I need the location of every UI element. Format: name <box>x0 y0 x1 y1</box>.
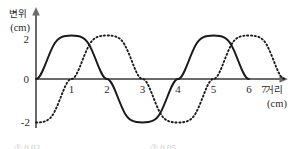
y-axis <box>32 7 40 128</box>
x-axis-unit: (cm) <box>267 98 287 110</box>
answer-choice-1[interactable]: ① 0.02 <box>14 143 40 149</box>
x-axis <box>36 75 288 83</box>
x-tick-label-6: 6 <box>246 83 252 95</box>
y-axis-title: 변위 <box>9 8 27 19</box>
wave-displacement-chart: 2 0 -2 1 2 3 4 5 6 7 변위 (cm) 거리 (cm) <box>0 0 297 149</box>
y-axis-arrow-icon <box>32 7 40 16</box>
chart-svg: 2 0 -2 1 2 3 4 5 6 7 변위 (cm) 거리 (cm) <box>0 0 297 149</box>
answer-choices-row: ① 0.02 ② 0.05 <box>0 138 297 149</box>
x-tick-label-3: 3 <box>140 83 146 95</box>
y-tick-label-2: 2 <box>24 33 30 45</box>
x-tick-label-1: 1 <box>69 83 75 95</box>
answer-choice-2[interactable]: ② 0.05 <box>150 143 176 149</box>
y-tick-label-minus-2: -2 <box>21 116 30 128</box>
x-tick-label-2: 2 <box>104 83 110 95</box>
x-tick-label-4: 4 <box>175 83 181 95</box>
y-tick-label-0: 0 <box>24 73 30 85</box>
x-tick-label-5: 5 <box>211 83 217 95</box>
x-axis-title: 거리 <box>265 84 283 95</box>
y-axis-unit: (cm) <box>10 22 30 34</box>
